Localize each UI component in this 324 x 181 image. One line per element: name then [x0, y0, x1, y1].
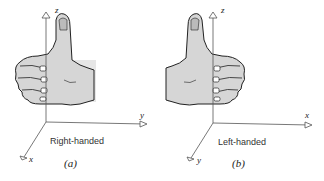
x-axis-label: x — [305, 110, 309, 120]
x-axis-line — [24, 122, 46, 157]
y-axis-label: y — [197, 155, 201, 165]
y-axis-line — [46, 122, 145, 124]
y-arrow-icon — [187, 157, 194, 161]
x-axis-line — [213, 123, 310, 125]
z-axis-label: z — [55, 5, 59, 15]
x-arrow-icon — [20, 156, 27, 160]
right-hand-icon — [15, 14, 96, 105]
y-axis-line — [191, 123, 213, 158]
caption-left-handed: Left-handed — [218, 137, 266, 147]
sublabel-a: (a) — [64, 157, 77, 169]
right-handed-diagram — [0, 0, 162, 181]
z-arrow-icon — [42, 12, 50, 18]
panel-left-handed: z x y Left-handed (b) — [162, 0, 324, 181]
panel-right-handed: z y x Right-handed (a) — [0, 0, 162, 181]
z-arrow-icon — [209, 12, 217, 18]
x-arrow-icon — [305, 122, 312, 128]
sublabel-b: (b) — [232, 157, 245, 169]
z-axis-label: z — [221, 5, 225, 15]
x-axis-label: x — [29, 154, 33, 164]
y-arrow-icon — [140, 121, 147, 127]
y-axis-label: y — [140, 110, 144, 120]
left-hand-icon — [166, 14, 245, 105]
caption-right-handed: Right-handed — [50, 136, 104, 146]
left-handed-diagram — [162, 0, 324, 181]
